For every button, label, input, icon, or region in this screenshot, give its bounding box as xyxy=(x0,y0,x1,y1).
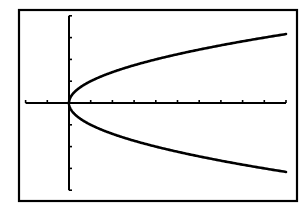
graph-window xyxy=(0,0,305,206)
